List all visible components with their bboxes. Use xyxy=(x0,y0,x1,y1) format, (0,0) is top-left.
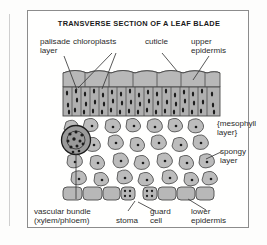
label-chloroplasts: chloroplasts xyxy=(73,37,116,46)
guard-cell-right xyxy=(143,187,157,200)
page-margin-rule xyxy=(9,14,10,226)
label-lower-epidermis: lower epidermis xyxy=(191,207,226,226)
vascular-bundle xyxy=(62,126,91,155)
label-guard-cell: guard cell xyxy=(150,207,171,226)
figure-frame: TRANSVERSE SECTION OF A LEAF BLADE xyxy=(27,10,249,228)
diagram-page: TRANSVERSE SECTION OF A LEAF BLADE xyxy=(0,0,267,245)
leader-cuticle xyxy=(162,53,177,71)
label-spongy-layer: spongy layer xyxy=(220,147,246,166)
spongy-mesophyll-layer xyxy=(63,118,217,185)
label-stoma: stoma xyxy=(116,216,138,225)
label-mesophyll-layer: {mesophyll layer} xyxy=(217,119,256,138)
label-vascular-bundle: vascular bundle (xylem/phloem) xyxy=(34,207,91,226)
label-upper-epidermis: upper epidermis xyxy=(191,37,226,56)
palisade-layer xyxy=(63,87,220,116)
lower-epidermis-layer xyxy=(63,187,214,200)
label-palisade-layer: palisade layer xyxy=(40,37,70,56)
label-cuticle: cuticle xyxy=(145,37,168,46)
guard-cell-left xyxy=(121,187,135,200)
leader-stoma xyxy=(128,201,135,211)
